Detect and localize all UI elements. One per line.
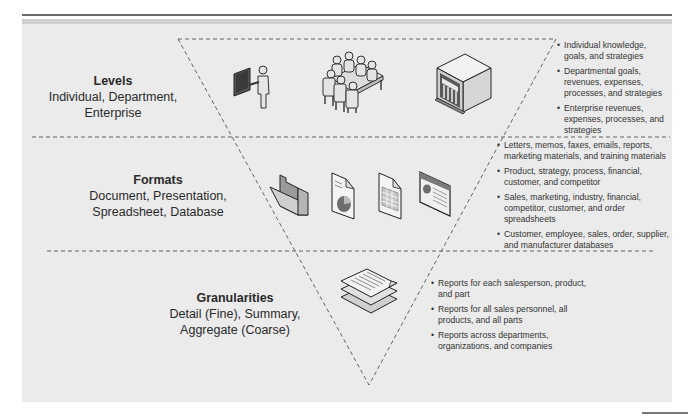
granularities-subtitle: Detail (Fine), Summary, Aggregate (Coars… [169,307,300,337]
levels-bullets: Individual knowledge, goals, and strateg… [557,40,669,140]
folder-icon [268,173,312,219]
granularities-bullet: Reports across departments, organization… [431,330,601,352]
granularities-bullet: Reports for all sales personnel, all pro… [431,304,601,326]
formats-bullet: Letters, memos, faxes, emails, reports, … [497,140,669,162]
enterprise-building-icon [431,48,493,116]
formats-bullets: Letters, memos, faxes, emails, reports, … [497,140,669,255]
levels-subtitle: Individual, Department, Enterprise [49,90,178,120]
formats-title: Formats [58,172,258,188]
stacked-reports-icon [339,267,403,317]
levels-bullet: Enterprise revenues, expenses, processes… [557,103,669,136]
formats-bullet: Sales, marketing, industry, financial, c… [497,192,669,225]
levels-bullet: Individual knowledge, goals, and strateg… [557,40,669,62]
formats-bullet: Customer, employee, sales, order, suppli… [497,229,669,251]
formats-subtitle: Document, Presentation, Spreadsheet, Dat… [89,189,227,219]
spreadsheet-icon [377,171,403,221]
bottom-tab-rule [642,412,688,414]
granularities-bullet: Reports for each salesperson, product, a… [431,278,601,300]
presenter-icon [232,58,274,110]
granularities-bullets: Reports for each salesperson, product, a… [431,278,601,356]
document-chart-icon [330,171,356,221]
levels-bullet: Departmental goals, revenues, expenses, … [557,66,669,99]
levels-label: Levels Individual, Department, Enterpris… [28,73,198,121]
levels-title: Levels [28,73,198,89]
meeting-table-icon [321,48,385,114]
presentation-slide-icon [418,170,452,220]
granularities-title: Granularities [140,290,330,306]
formats-label: Formats Document, Presentation, Spreadsh… [58,172,258,220]
granularities-label: Granularities Detail (Fine), Summary, Ag… [140,290,330,338]
formats-bullet: Product, strategy, process, financial, c… [497,166,669,188]
